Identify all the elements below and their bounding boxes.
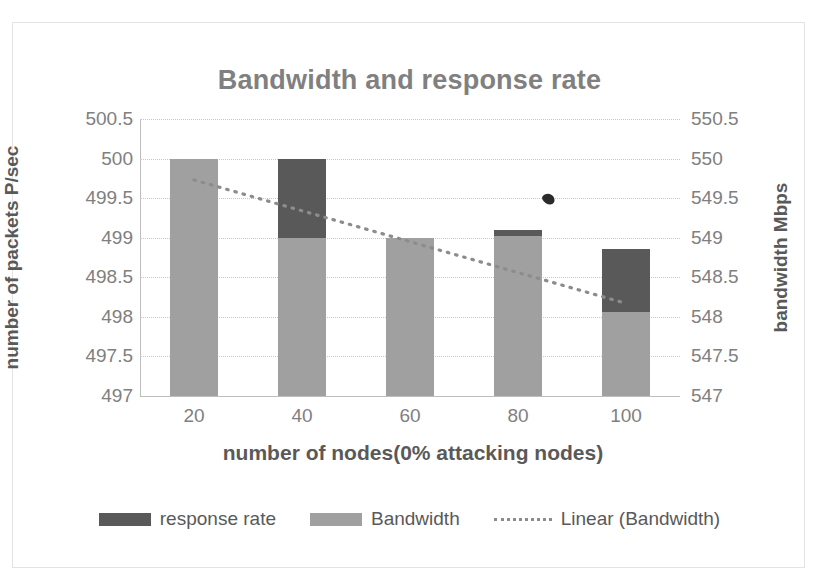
legend-label: Linear (Bandwidth)	[561, 508, 720, 530]
linear-trendline	[140, 119, 680, 396]
y-tick-right-3: 549	[691, 227, 723, 249]
y-axis-right-ticks: 550.5 550 549.5 549 548.5 548 547.5 547	[691, 119, 771, 396]
legend-item-linear-bandwidth[interactable]: Linear (Bandwidth)	[494, 508, 720, 530]
legend-label: response rate	[160, 508, 276, 530]
y-tick-right-0: 550.5	[691, 108, 739, 130]
legend-item-bandwidth[interactable]: Bandwidth	[310, 508, 460, 530]
y-tick-left-7: 497	[101, 385, 133, 407]
y-axis-title-right: bandwidth Mbps	[770, 119, 796, 396]
x-axis-line	[140, 396, 680, 397]
chart-title: Bandwidth and response rate	[13, 65, 806, 96]
x-tick-0: 20	[183, 405, 204, 427]
legend-dotted-line-icon	[494, 518, 552, 521]
legend-swatch-icon	[99, 513, 151, 526]
y-tick-right-5: 548	[691, 306, 723, 328]
chart-frame: Bandwidth and response rate number of pa…	[12, 22, 805, 568]
legend-label: Bandwidth	[371, 508, 460, 530]
legend-item-response-rate[interactable]: response rate	[99, 508, 276, 530]
y-tick-left-1: 500	[101, 148, 133, 170]
y-tick-right-7: 547	[691, 385, 723, 407]
x-axis-title: number of nodes(0% attacking nodes)	[73, 441, 753, 465]
x-tick-4: 100	[610, 405, 642, 427]
y-tick-left-6: 497.5	[85, 345, 133, 367]
y-axis-left-ticks: 500.5 500 499.5 499 498.5 498 497.5 497	[65, 119, 133, 396]
x-tick-3: 80	[507, 405, 528, 427]
y-tick-left-2: 499.5	[85, 187, 133, 209]
legend-swatch-icon	[310, 513, 362, 526]
plot-area	[140, 119, 680, 396]
y-tick-left-4: 498.5	[85, 266, 133, 288]
chart-screenshot: Bandwidth and response rate number of pa…	[0, 0, 823, 587]
x-tick-1: 40	[291, 405, 312, 427]
y-tick-right-1: 550	[691, 148, 723, 170]
y-tick-right-2: 549.5	[691, 187, 739, 209]
y-tick-right-6: 547.5	[691, 345, 739, 367]
y-tick-left-0: 500.5	[85, 108, 133, 130]
chart-legend: response rate Bandwidth Linear (Bandwidt…	[13, 508, 806, 530]
y-tick-right-4: 548.5	[691, 266, 739, 288]
y-axis-title-left: number of packets P/sec	[1, 119, 27, 396]
x-tick-2: 60	[399, 405, 420, 427]
y-tick-left-3: 499	[101, 227, 133, 249]
y-tick-left-5: 498	[101, 306, 133, 328]
